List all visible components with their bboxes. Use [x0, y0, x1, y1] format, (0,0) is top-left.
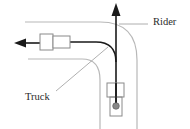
- truck-trailer: [53, 36, 70, 48]
- rider-dot-icon: [113, 103, 120, 110]
- rider-arrowhead-icon: [112, 3, 121, 16]
- truck-arrowhead-icon: [14, 39, 26, 48]
- truck-cab: [40, 34, 53, 50]
- truck-label: Truck: [25, 92, 50, 103]
- rider-label: Rider: [153, 17, 176, 28]
